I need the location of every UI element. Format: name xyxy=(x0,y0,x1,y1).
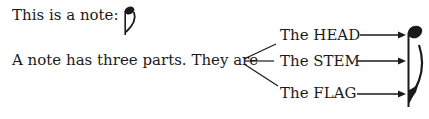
small-eighth-note-icon xyxy=(124,5,136,35)
arrows xyxy=(357,32,406,98)
part-label-head: The HEAD xyxy=(280,28,360,43)
part-label-stem: The STEM xyxy=(280,54,360,69)
part-label-flag: The FLAG xyxy=(280,86,357,101)
intro-line-2: A note has three parts. They are xyxy=(12,53,258,68)
large-eighth-note-icon xyxy=(406,23,425,107)
